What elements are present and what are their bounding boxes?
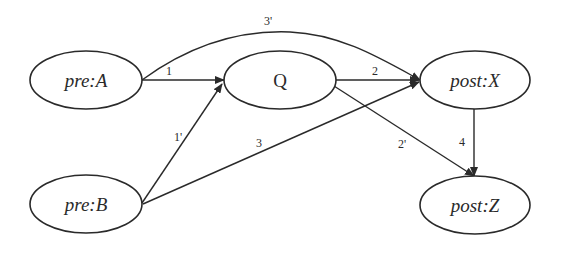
node-post-z: post:Z bbox=[420, 176, 530, 234]
node-post-x-label: post:X bbox=[448, 70, 501, 91]
edge-label-3: 3 bbox=[256, 136, 262, 150]
node-post-z-label: post:Z bbox=[449, 195, 500, 216]
edge-label-3prime: 3' bbox=[264, 14, 272, 28]
edge-label-2prime: 2' bbox=[398, 137, 406, 151]
node-q-label: Q bbox=[273, 70, 287, 91]
edge-label-1: 1 bbox=[166, 64, 172, 78]
diagram-canvas: 3' 1 1' 3 2 2' 4 pre:A Q post:X pre:B po… bbox=[0, 0, 563, 253]
edge-label-2: 2 bbox=[372, 64, 378, 78]
node-pre-a-label: pre:A bbox=[63, 70, 108, 91]
edge-label-1prime: 1' bbox=[174, 130, 182, 144]
node-pre-b-label: pre:B bbox=[63, 194, 108, 215]
node-pre-b: pre:B bbox=[30, 175, 142, 233]
edge-label-4: 4 bbox=[459, 135, 465, 149]
node-post-x: post:X bbox=[420, 51, 530, 109]
node-q: Q bbox=[224, 51, 336, 109]
node-pre-a: pre:A bbox=[30, 51, 142, 109]
